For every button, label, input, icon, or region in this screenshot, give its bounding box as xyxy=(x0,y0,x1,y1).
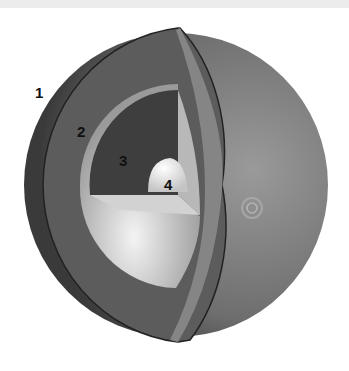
planet-cutaway-illustration xyxy=(0,0,349,371)
label-layer-1: 1 xyxy=(35,85,43,100)
label-layer-3: 3 xyxy=(119,153,127,168)
label-layer-4: 4 xyxy=(164,177,172,192)
label-layer-2: 2 xyxy=(77,124,85,139)
